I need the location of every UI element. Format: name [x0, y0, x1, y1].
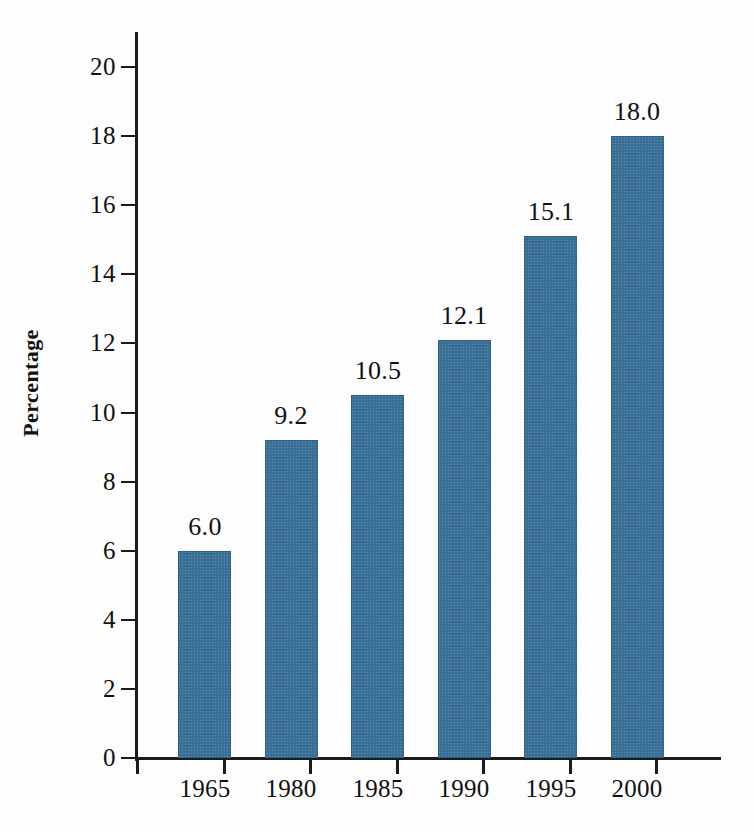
y-tick-label-0: 0	[56, 745, 116, 770]
y-tick-label-2: 2	[56, 676, 116, 701]
y-tick-14	[121, 273, 136, 275]
bar-1980	[265, 440, 318, 758]
y-tick-label-14: 14	[56, 261, 116, 286]
y-tick-2	[121, 688, 136, 690]
y-tick-label-20: 20	[56, 54, 116, 79]
y-tick-18	[121, 135, 136, 137]
x-tick-2	[309, 759, 312, 774]
y-axis-line	[135, 32, 138, 761]
bar-1965	[178, 551, 231, 758]
bar-1990	[438, 340, 491, 758]
bar-1985	[351, 395, 404, 758]
x-tick-label-2000: 2000	[587, 776, 687, 801]
x-tick-label-1980: 1980	[241, 776, 341, 801]
y-tick-16	[121, 204, 136, 206]
y-tick-12	[121, 342, 136, 344]
bar-value-label-1965: 6.0	[150, 514, 260, 540]
y-tick-label-10: 10	[56, 400, 116, 425]
y-tick-20	[121, 66, 136, 68]
bar-chart: Percentage 02468101214161820 19651980198…	[0, 0, 754, 832]
bar-1995	[524, 236, 577, 758]
y-tick-label-8: 8	[56, 469, 116, 494]
y-axis-title: Percentage	[18, 308, 44, 458]
x-tick-label-1985: 1985	[328, 776, 428, 801]
x-tick-5	[569, 759, 572, 774]
y-tick-0	[121, 757, 136, 759]
y-tick-8	[121, 481, 136, 483]
bar-value-label-1990: 12.1	[409, 303, 519, 329]
x-tick-4	[482, 759, 485, 774]
x-tick-label-1990: 1990	[414, 776, 514, 801]
x-tick-3	[396, 759, 399, 774]
y-tick-label-18: 18	[56, 123, 116, 148]
y-tick-label-12: 12	[56, 330, 116, 355]
bar-value-label-2000: 18.0	[582, 99, 692, 125]
y-tick-label-4: 4	[56, 607, 116, 632]
bar-2000	[611, 136, 664, 758]
x-tick-0	[136, 759, 139, 774]
x-tick-1	[223, 759, 226, 774]
y-tick-label-6: 6	[56, 538, 116, 563]
bar-value-label-1985: 10.5	[323, 358, 433, 384]
x-tick-label-1995: 1995	[501, 776, 601, 801]
y-tick-4	[121, 619, 136, 621]
y-tick-6	[121, 550, 136, 552]
y-tick-10	[121, 412, 136, 414]
bar-value-label-1980: 9.2	[236, 403, 346, 429]
x-tick-6	[655, 759, 658, 774]
y-tick-label-16: 16	[56, 192, 116, 217]
x-tick-label-1965: 1965	[155, 776, 255, 801]
bar-value-label-1995: 15.1	[496, 199, 606, 225]
